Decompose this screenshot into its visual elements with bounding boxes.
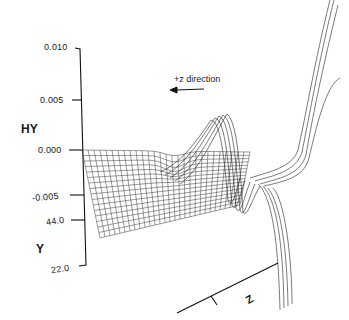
wireframe-mesh [82, 150, 250, 238]
tick-label-0000: 0.000 [38, 145, 62, 155]
tick-label-0005: 0.005 [40, 95, 64, 105]
direction-arrow-icon [170, 87, 204, 93]
right-spike [250, 0, 340, 310]
z-axis [177, 263, 278, 313]
direction-label: +z direction [174, 74, 220, 84]
tick-label-0010: 0.010 [44, 42, 68, 52]
hy-axis-title: HY [21, 122, 38, 136]
y-axis-title: Y [36, 242, 44, 256]
